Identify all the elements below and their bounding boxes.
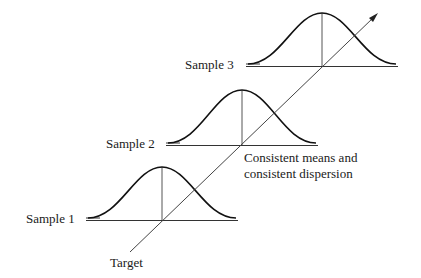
sample-2-distribution [166, 90, 318, 146]
diagram-canvas [0, 0, 421, 278]
annotation-line-2: consistent dispersion [244, 166, 353, 181]
sample-1-distribution [86, 167, 238, 221]
annotation-line-1: Consistent means and [244, 150, 357, 165]
sample-3-distribution [246, 13, 398, 67]
sample-3-label: Sample 3 [185, 57, 234, 72]
target-arrow [130, 13, 378, 252]
target-label: Target [110, 255, 143, 270]
sample-1-label: Sample 1 [26, 211, 75, 226]
sample-2-label: Sample 2 [106, 136, 155, 151]
